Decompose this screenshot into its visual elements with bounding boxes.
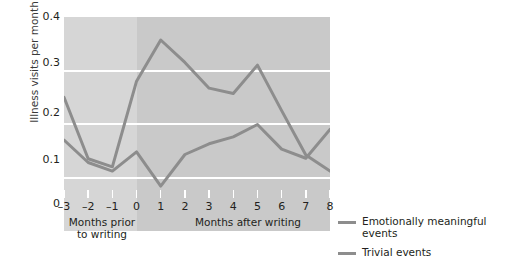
x-tick-mark bbox=[305, 190, 307, 198]
y-axis-tick-labels: 0.4 0.3 0.2 0.1 0 bbox=[16, 0, 60, 270]
x-caption-prior-line2: to writing bbox=[77, 228, 127, 240]
legend-swatch-icon bbox=[338, 221, 356, 224]
x-tick-mark bbox=[160, 190, 162, 198]
x-tick-mark bbox=[233, 190, 235, 198]
y-tick-label: 0.1 bbox=[20, 155, 60, 165]
x-tick-mark bbox=[329, 190, 331, 198]
x-axis-caption-prior: Months prior to writing bbox=[56, 216, 148, 240]
x-axis-caption-after: Months after writing bbox=[160, 216, 336, 228]
x-tick-mark bbox=[184, 190, 186, 198]
x-tick-mark bbox=[136, 190, 138, 198]
legend-label-line1: Trivial events bbox=[362, 246, 431, 258]
x-tick-mark bbox=[208, 190, 210, 198]
x-caption-prior-line1: Months prior bbox=[69, 216, 135, 228]
x-tick-mark bbox=[63, 190, 65, 198]
y-tick-label: 0.2 bbox=[20, 108, 60, 118]
y-tick-label: 0.3 bbox=[20, 58, 60, 68]
legend-swatch-icon bbox=[338, 252, 356, 255]
x-axis-tick-labels: –3–2–1012345678 bbox=[44, 200, 364, 216]
x-tick-label: 8 bbox=[315, 200, 345, 213]
x-tick-mark bbox=[281, 190, 283, 198]
legend-item-emotionally-meaningful[interactable]: Emotionally meaningful events bbox=[338, 216, 503, 239]
y-tick-label: 0.4 bbox=[20, 12, 60, 22]
x-tick-mark bbox=[87, 190, 89, 198]
legend-item-trivial-events[interactable]: Trivial events bbox=[338, 247, 503, 259]
chart-figure: Illness visits per month 0.4 0.3 0.2 0.1… bbox=[0, 0, 505, 270]
legend-label-line2: events bbox=[362, 227, 397, 239]
x-tick-mark bbox=[257, 190, 259, 198]
chart-legend: Emotionally meaningful events Trivial ev… bbox=[338, 216, 503, 267]
x-tick-mark bbox=[112, 190, 114, 198]
legend-label-line1: Emotionally meaningful bbox=[362, 215, 487, 227]
line-emotionally-meaningful-events bbox=[64, 125, 330, 187]
